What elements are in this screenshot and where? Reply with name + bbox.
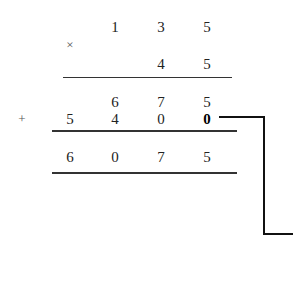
callout-bracket-line [0,0,293,293]
